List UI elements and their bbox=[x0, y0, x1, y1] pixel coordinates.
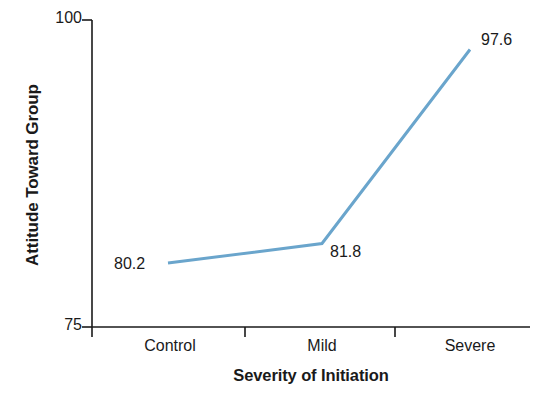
data-point-label-severe: 97.6 bbox=[481, 31, 512, 49]
x-axis-tick-label-mild: Mild bbox=[242, 337, 402, 355]
data-point-label-mild: 81.8 bbox=[330, 243, 361, 261]
data-point-label-control: 80.2 bbox=[114, 255, 145, 273]
y-axis-tick-label-75: 75 bbox=[22, 316, 82, 334]
data-series-line bbox=[168, 50, 470, 264]
x-axis-title: Severity of Initiation bbox=[92, 366, 530, 385]
y-axis-title: Attitude Toward Group bbox=[23, 25, 43, 325]
chart-plot-area bbox=[0, 0, 549, 394]
line-chart-figure: Attitude Toward Group Severity of Initia… bbox=[0, 0, 549, 394]
x-axis-tick-label-control: Control bbox=[90, 337, 250, 355]
y-axis-tick-label-100: 100 bbox=[22, 9, 82, 27]
x-axis-tick-label-severe: Severe bbox=[390, 337, 549, 355]
